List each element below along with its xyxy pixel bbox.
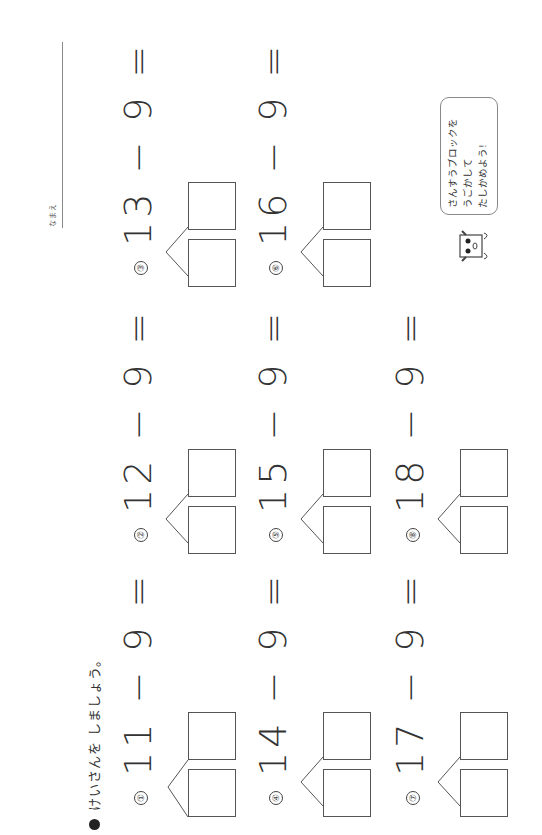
- problem-5: ⑤ 15 − 9 =: [263, 397, 373, 557]
- answer-box-right[interactable]: [188, 712, 236, 760]
- answer-box-left[interactable]: [188, 506, 236, 554]
- worksheet-page: けいさんを しましょう。 なまえ ① 11 − 9 = ② 12 − 9 = ③…: [0, 0, 542, 835]
- hint-line-3: たしかめよう!: [475, 104, 490, 208]
- problem-1: ① 11 − 9 =: [128, 660, 238, 820]
- problem-6: ⑥ 16 − 9 =: [263, 130, 373, 290]
- answer-box-left[interactable]: [188, 769, 236, 817]
- answer-box-left[interactable]: [323, 239, 371, 287]
- hint-bubble: さんすうブロックを うごかして たしかめよう!: [440, 97, 498, 215]
- problem-8: ⑧ 18 − 9 =: [400, 397, 510, 557]
- answer-box-right[interactable]: [460, 712, 508, 760]
- answer-box-left[interactable]: [188, 239, 236, 287]
- block-mascot-icon: [450, 223, 494, 267]
- answer-box-right[interactable]: [188, 182, 236, 230]
- answer-box-left[interactable]: [460, 506, 508, 554]
- hint-line-1: さんすうブロックを: [445, 104, 460, 208]
- answer-box-left[interactable]: [323, 769, 371, 817]
- answer-box-left[interactable]: [460, 769, 508, 817]
- problem-2: ② 12 − 9 =: [128, 397, 238, 557]
- answer-box-right[interactable]: [460, 449, 508, 497]
- name-input-line[interactable]: [62, 42, 63, 228]
- answer-box-right[interactable]: [323, 712, 371, 760]
- instruction-header: けいさんを しましょう。: [84, 653, 103, 830]
- problem-7: ⑦ 17 − 9 =: [400, 660, 510, 820]
- name-label: なまえ: [47, 203, 57, 227]
- instruction-text: けいさんを しましょう。: [87, 653, 102, 811]
- answer-box-right[interactable]: [323, 449, 371, 497]
- hint-line-2: うごかして: [460, 104, 475, 208]
- answer-box-right[interactable]: [323, 182, 371, 230]
- bullet-icon: [89, 819, 100, 830]
- answer-box-right[interactable]: [188, 449, 236, 497]
- problem-3: ③ 13 − 9 =: [128, 130, 238, 290]
- problem-4: ④ 14 − 9 =: [263, 660, 373, 820]
- answer-box-left[interactable]: [323, 506, 371, 554]
